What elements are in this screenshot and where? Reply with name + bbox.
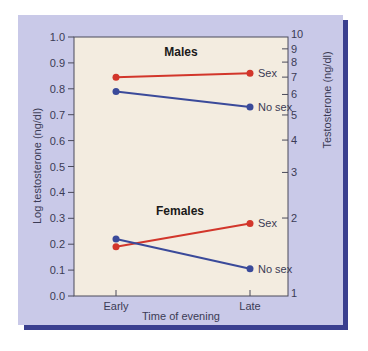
left-tick-label: 0.0: [50, 290, 65, 302]
left-tick-label: 0.8: [50, 83, 65, 95]
right-tick-label: 2: [291, 212, 297, 224]
males-sex-point-late: [247, 70, 254, 77]
right-tick-label: 8: [291, 56, 297, 68]
x-tick-label-early: Early: [103, 300, 129, 312]
right-tick-label: 9: [291, 43, 297, 55]
left-tick-label: 1.0: [50, 31, 65, 43]
females-sex-point-late: [247, 220, 254, 227]
right-tick-label: 10: [291, 28, 303, 40]
females-no-sex-label: No sex: [258, 263, 293, 275]
testosterone-chart: 0.00.10.20.30.40.50.60.70.80.91.0 123456…: [0, 0, 368, 351]
left-tick-label: 0.1: [50, 264, 65, 276]
left-tick-label: 0.4: [50, 186, 65, 198]
left-y-axis: 0.00.10.20.30.40.50.60.70.80.91.0: [50, 31, 74, 302]
left-tick-label: 0.6: [50, 135, 65, 147]
females-no-sex-point-late: [247, 265, 254, 272]
right-axis-title: Testosterone (ng/dl): [321, 51, 333, 148]
males-sex-point-early: [113, 74, 120, 81]
right-tick-label: 6: [291, 88, 297, 100]
left-axis-title: Log testosterone (ng/dl): [31, 108, 43, 224]
left-tick-label: 0.7: [50, 109, 65, 121]
x-tick-label-late: Late: [239, 300, 260, 312]
right-tick-label: 4: [291, 134, 297, 146]
females-sex-label: Sex: [258, 217, 277, 229]
left-tick-label: 0.9: [50, 57, 65, 69]
left-tick-label: 0.5: [50, 161, 65, 173]
x-axis-title: Time of evening: [142, 310, 220, 322]
males-sex-label: Sex: [258, 67, 277, 79]
males-label: Males: [164, 45, 198, 59]
right-tick-label: 1: [291, 287, 297, 299]
males-no-sex-point-early: [113, 88, 120, 95]
left-tick-label: 0.2: [50, 238, 65, 250]
males-no-sex-label: No sex: [258, 101, 293, 113]
right-tick-label: 7: [291, 71, 297, 83]
left-tick-label: 0.3: [50, 212, 65, 224]
females-label: Females: [156, 204, 204, 218]
right-tick-label: 3: [291, 166, 297, 178]
females-sex-point-early: [113, 243, 120, 250]
males-no-sex-point-late: [247, 103, 254, 110]
females-no-sex-point-early: [113, 236, 120, 243]
